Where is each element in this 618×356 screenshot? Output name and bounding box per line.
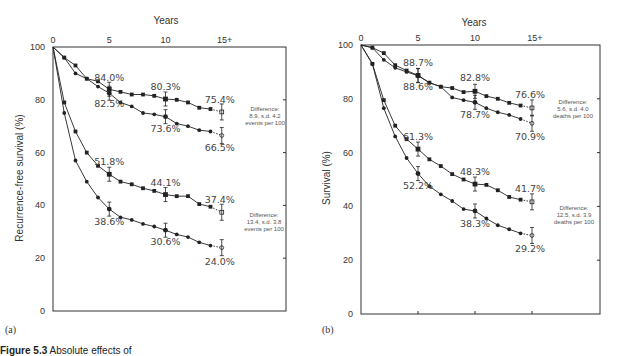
svg-text:events per 100: events per 100 bbox=[245, 120, 285, 126]
svg-text:8.9, s.d. 4.2: 8.9, s.d. 4.2 bbox=[249, 113, 281, 119]
square-marker bbox=[197, 106, 201, 110]
square-marker bbox=[382, 51, 386, 55]
x-tick-label: 10 bbox=[470, 33, 480, 43]
point-value-label: 66.5% bbox=[205, 142, 235, 153]
point-value-label: 82.5% bbox=[94, 98, 124, 109]
point-value-label: 88.6% bbox=[403, 81, 433, 92]
circle-marker bbox=[62, 111, 66, 115]
circle-marker bbox=[439, 192, 443, 196]
y-tick-label: 80 bbox=[35, 95, 45, 105]
circle-marker bbox=[382, 58, 386, 62]
point-value-label: 52.2% bbox=[403, 180, 433, 191]
square-marker bbox=[119, 90, 123, 94]
square-marker bbox=[496, 188, 500, 192]
square-marker bbox=[507, 195, 511, 199]
circle-marker bbox=[85, 180, 89, 184]
survival-charts: Years Recurrence-free survival (%) 05101… bbox=[0, 0, 618, 356]
square-marker bbox=[85, 151, 89, 155]
x-tick-label: 5 bbox=[415, 33, 420, 43]
point-value-label: 76.6% bbox=[515, 89, 545, 100]
circle-marker bbox=[439, 85, 443, 89]
square-marker bbox=[186, 194, 190, 198]
circle-marker bbox=[450, 199, 454, 203]
point-value-label: 41.7% bbox=[515, 183, 545, 194]
point-value-label: 70.9% bbox=[515, 131, 545, 142]
circle-marker bbox=[519, 231, 523, 235]
square-marker bbox=[209, 205, 213, 209]
x-axis-title: Years bbox=[153, 15, 178, 26]
x-tick-label: 0 bbox=[50, 35, 55, 45]
y-tick-label: 100 bbox=[338, 40, 353, 50]
series-line bbox=[361, 45, 521, 233]
circle-marker bbox=[74, 159, 78, 163]
circle-marker bbox=[152, 225, 156, 229]
point-value-label: 73.6% bbox=[150, 123, 180, 134]
panel-a-recurrence-free-survival: Years Recurrence-free survival (%) 05101… bbox=[5, 15, 286, 336]
square-marker bbox=[485, 94, 489, 98]
point-value-label: 37.4% bbox=[205, 194, 235, 205]
circle-marker bbox=[393, 135, 397, 139]
circle-marker bbox=[96, 196, 100, 200]
series-line bbox=[53, 47, 211, 246]
y-tick-label: 80 bbox=[343, 94, 353, 104]
svg-text:deaths per 100: deaths per 100 bbox=[554, 219, 595, 225]
circle-marker bbox=[382, 106, 386, 110]
y-tick-label: 40 bbox=[343, 201, 353, 211]
figure-caption-label: Figure 5.3 bbox=[0, 345, 47, 356]
difference-annotation-upper: Difference: 8.9, s.d. 4.2 events per 100 bbox=[245, 106, 285, 126]
circle-marker bbox=[74, 72, 78, 76]
svg-text:13.4, s.d. 3.8: 13.4, s.d. 3.8 bbox=[247, 219, 282, 225]
circle-marker bbox=[197, 240, 201, 244]
circle-marker bbox=[507, 227, 511, 231]
x-tick-labels: 051015+ bbox=[358, 33, 542, 43]
circle-marker bbox=[141, 222, 145, 226]
y-tick-label: 20 bbox=[35, 253, 45, 263]
x-tick-labels: 051015+ bbox=[50, 35, 232, 45]
circle-marker bbox=[141, 111, 145, 115]
circle-marker bbox=[209, 244, 213, 248]
square-marker bbox=[175, 98, 179, 102]
figure-caption: Figure 5.3 Absolute effects of bbox=[0, 345, 132, 356]
circle-marker bbox=[462, 98, 466, 102]
x-tick-label: 15+ bbox=[217, 35, 232, 45]
circle-marker bbox=[496, 223, 500, 227]
circle-marker bbox=[405, 70, 409, 74]
square-marker bbox=[197, 202, 201, 206]
square-marker bbox=[186, 101, 190, 105]
point-value-label: 78.7% bbox=[460, 109, 490, 120]
series-line bbox=[361, 45, 521, 200]
x-tick-label: 10 bbox=[160, 35, 170, 45]
point-value-label: 51.8% bbox=[94, 156, 124, 167]
square-marker bbox=[519, 104, 523, 108]
circle-marker bbox=[197, 128, 201, 132]
series-lines bbox=[53, 47, 224, 256]
y-tick-label: 100 bbox=[30, 42, 45, 52]
point-value-label: 38.3% bbox=[460, 218, 490, 229]
point-value-label: 75.4% bbox=[205, 94, 235, 105]
series-line bbox=[53, 47, 211, 109]
circle-marker bbox=[209, 130, 213, 134]
x-tick-label: 0 bbox=[358, 33, 363, 43]
square-marker bbox=[130, 93, 134, 97]
circle-marker bbox=[496, 110, 500, 114]
square-marker bbox=[74, 130, 78, 134]
square-marker bbox=[450, 172, 454, 176]
svg-text:deaths per 100: deaths per 100 bbox=[553, 113, 594, 119]
svg-text:Difference:: Difference: bbox=[251, 106, 280, 112]
square-marker bbox=[450, 86, 454, 90]
plot-frame bbox=[361, 45, 600, 314]
y-axis-title: Survival (%) bbox=[321, 151, 332, 205]
circle-marker bbox=[130, 218, 134, 222]
circle-marker bbox=[405, 156, 409, 160]
square-marker bbox=[152, 189, 156, 193]
circle-marker bbox=[393, 66, 397, 70]
point-value-label: 61.3% bbox=[403, 131, 433, 142]
svg-text:Difference:: Difference: bbox=[560, 205, 589, 211]
point-value-label: 24.0% bbox=[205, 256, 235, 267]
y-tick-label: 60 bbox=[35, 148, 45, 158]
point-value-label: 48.3% bbox=[460, 166, 490, 177]
svg-text:5.6, s.d. 4.0: 5.6, s.d. 4.0 bbox=[557, 106, 589, 112]
point-value-label: 84.0% bbox=[94, 72, 124, 83]
point-value-label: 44.1% bbox=[150, 177, 180, 188]
square-marker bbox=[393, 124, 397, 128]
